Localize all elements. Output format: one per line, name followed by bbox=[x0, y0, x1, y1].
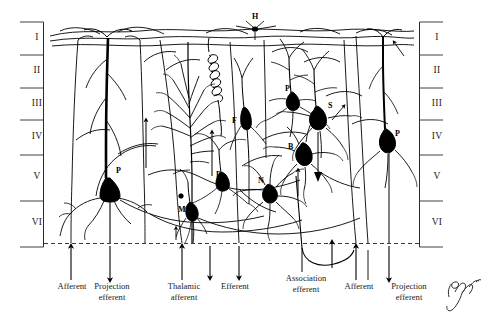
pyramidal-cell-P-right bbox=[353, 29, 417, 243]
cell-label-P-mid: P bbox=[216, 170, 221, 179]
layer-label-left-IV: IV bbox=[26, 131, 48, 141]
author-signature bbox=[447, 280, 481, 311]
collateral-and-association-fibers bbox=[76, 36, 388, 243]
layer-label-left-I: I bbox=[26, 32, 48, 42]
layer-label-right-III: III bbox=[426, 98, 448, 108]
cell-label-P-upper-right: P bbox=[285, 84, 290, 93]
layer-label-left-II: II bbox=[26, 65, 48, 75]
layer-label-left-V: V bbox=[26, 171, 48, 181]
layer-label-left-VI: VI bbox=[26, 217, 48, 227]
cell-label-P-right: P bbox=[395, 129, 400, 138]
layer-label-right-VI: VI bbox=[426, 217, 448, 227]
figure-canvas: I II III IV V VI I II III IV V VI H P F … bbox=[0, 0, 486, 317]
pathway-label-association-efferent: Association efferent bbox=[277, 273, 335, 295]
cell-label-B: B bbox=[288, 142, 293, 151]
cell-label-M: M bbox=[178, 205, 186, 214]
cortical-surface-fibers bbox=[50, 27, 414, 46]
pathway-label-projection-efferent-2: Projection efferent bbox=[380, 281, 438, 303]
association-efferent-loop bbox=[296, 176, 354, 265]
cell-label-F: F bbox=[232, 116, 237, 125]
layer-label-left-III: III bbox=[26, 98, 48, 108]
layer-label-right-V: V bbox=[426, 171, 448, 181]
cell-label-N: N bbox=[258, 176, 264, 185]
pathway-label-projection-efferent-1: Projection efferent bbox=[84, 281, 140, 303]
layer-label-right-II: II bbox=[426, 65, 448, 75]
layer-label-right-I: I bbox=[426, 32, 448, 42]
cortex-diagram-artwork bbox=[0, 0, 486, 317]
pathway-label-efferent: Efferent bbox=[212, 281, 258, 292]
cell-label-H: H bbox=[252, 12, 258, 21]
pathway-arrows bbox=[71, 242, 389, 280]
cell-label-P-left: P bbox=[116, 166, 121, 175]
layer-label-right-IV: IV bbox=[426, 131, 448, 141]
pathway-label-afferent-2: Afferent bbox=[334, 281, 384, 292]
pathway-label-thalamic-afferent: Thalamic afferent bbox=[156, 281, 212, 303]
cell-P-mid bbox=[184, 134, 258, 214]
cell-label-S: S bbox=[328, 101, 332, 110]
